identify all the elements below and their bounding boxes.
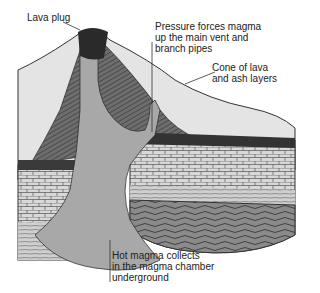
label-cone: Cone of lava and ash layers [212,62,277,84]
label-magma-chamber: Hot magma collects in the magma chamber … [112,250,214,283]
label-lava-plug: Lava plug [27,12,70,23]
label-pressure: Pressure forces magma up the main vent a… [155,21,261,54]
lava-plug [78,28,108,60]
